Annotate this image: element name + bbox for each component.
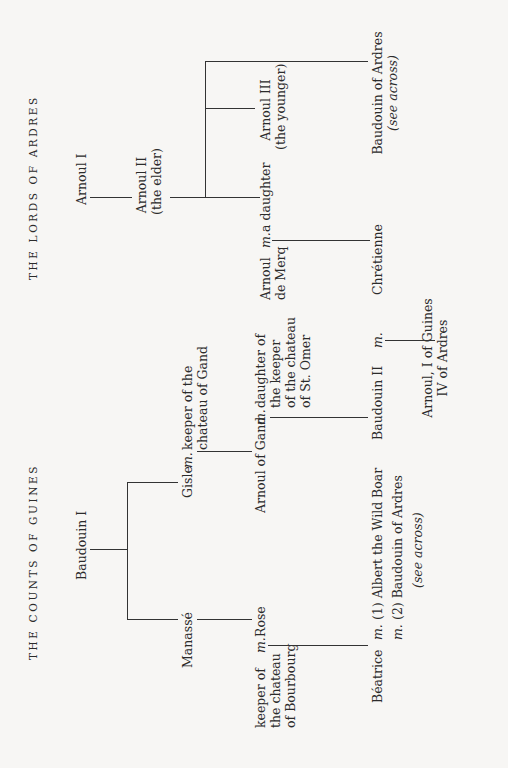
descent-line xyxy=(170,197,205,198)
person-arnoul-3: Arnoul III (the younger) xyxy=(258,70,288,150)
descent-line xyxy=(90,197,132,198)
descent-line xyxy=(197,451,252,452)
marriage-symbol: m. xyxy=(370,332,385,348)
person-rose: Rose xyxy=(253,606,268,637)
branch-arnoul-3 xyxy=(205,108,255,109)
person-chretienne: Chrétienne xyxy=(370,224,385,295)
marriage-symbol: m. xyxy=(253,409,268,425)
title-counts-of-guines: THE COUNTS OF GUINES xyxy=(27,464,39,660)
marriage-baudouin-ardres: (2) Baudouin of Ardres xyxy=(390,475,405,620)
sibling-bracket xyxy=(205,62,206,198)
descent-line xyxy=(197,619,252,620)
person-baudouin-2: Baudouin II xyxy=(370,366,385,440)
branch-a-daughter xyxy=(205,197,260,198)
descent-line xyxy=(270,417,368,418)
genealogy-page: THE LORDS OF ARDRES THE COUNTS OF GUINES… xyxy=(0,0,508,768)
person-arnoul-i-of-guines: Arnoul, I of Guines IV of Ardres xyxy=(420,293,450,423)
descent-line xyxy=(268,645,368,646)
person-arnoul-de-merq: Arnoul de Merq xyxy=(258,246,288,300)
person-arnoul-1: Arnoul I xyxy=(74,153,89,205)
person-baudouin-of-ardres: Baudouin of Ardres (see across) xyxy=(370,28,400,158)
descent-line xyxy=(90,549,127,550)
descent-line xyxy=(385,340,435,341)
title-lords-of-ardres: THE LORDS OF ARDRES xyxy=(27,95,39,280)
person-baudouin-1: Baudouin I xyxy=(74,511,89,580)
branch-manasse xyxy=(127,619,178,620)
person-arnoul-2: Arnoul II (the elder) xyxy=(134,155,164,215)
person-manasse: Manassé xyxy=(180,612,195,668)
person-beatrice: Béatrice xyxy=(370,650,385,703)
see-across-note: (see across) xyxy=(410,512,425,588)
branch-baudouin-ardres xyxy=(205,61,368,62)
descent-line xyxy=(272,240,370,241)
person-keeper-bourbourg: keeper of the chateau of Bourbourg xyxy=(253,644,298,728)
person-gisle: Gisle xyxy=(180,466,195,498)
person-arnoul-of-gand: Arnoul of Gand xyxy=(253,417,268,513)
person-keeper-gand: keeper of the chateau of Gand xyxy=(180,346,210,450)
branch-gisle xyxy=(127,482,178,483)
marriage-symbol: m. xyxy=(180,452,195,468)
person-a-daughter: a daughter xyxy=(258,163,273,232)
person-daughter-st-omer: daughter of the keeper of the chateau of… xyxy=(253,317,313,408)
marriage-symbol: m. xyxy=(370,624,385,640)
marriage-albert: (1) Albert the Wild Boar xyxy=(370,468,385,620)
sibling-bracket xyxy=(127,483,128,620)
marriage-symbol: m. xyxy=(390,624,405,640)
